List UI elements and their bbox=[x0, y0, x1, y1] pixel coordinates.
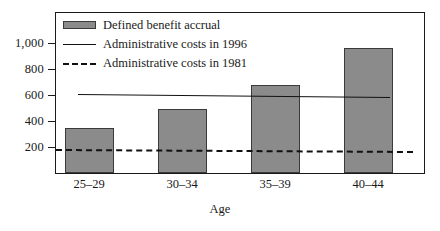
y-axis-label-800: 800 bbox=[0, 63, 44, 76]
chart-legend: Defined benefit accrual Administrative c… bbox=[63, 16, 323, 73]
y-axis-label-1000: 1,000 bbox=[0, 37, 44, 50]
x-axis-label-40-44: 40–44 bbox=[328, 178, 408, 191]
legend-dashed-line-icon bbox=[63, 54, 97, 73]
plot-area: Defined benefit accrual Administrative c… bbox=[55, 12, 425, 174]
x-axis-label-30-34: 30–34 bbox=[142, 178, 222, 191]
legend-label-defined-benefit-accrual: Defined benefit accrual bbox=[103, 17, 220, 33]
x-axis-title: Age bbox=[0, 203, 440, 216]
x-axis-label-35-39: 35–39 bbox=[235, 178, 315, 191]
legend-swatch-icon bbox=[63, 16, 97, 35]
y-axis-label-200: 200 bbox=[0, 141, 44, 154]
y-axis-label-600: 600 bbox=[0, 89, 44, 102]
y-axis-label-400: 400 bbox=[0, 115, 44, 128]
x-axis-label-25-29: 25–29 bbox=[49, 178, 129, 191]
legend-label-admin-costs-1996: Administrative costs in 1996 bbox=[103, 36, 247, 52]
bar-35-39 bbox=[251, 85, 300, 173]
legend-label-admin-costs-1981: Administrative costs in 1981 bbox=[103, 55, 247, 71]
legend-item-defined-benefit-accrual: Defined benefit accrual bbox=[63, 16, 323, 35]
legend-solid-line-icon bbox=[63, 35, 97, 54]
bar-40-44 bbox=[344, 48, 393, 173]
legend-item-admin-costs-1981: Administrative costs in 1981 bbox=[63, 54, 323, 73]
bar-30-34 bbox=[158, 109, 207, 173]
legend-item-admin-costs-1996: Administrative costs in 1996 bbox=[63, 35, 323, 54]
bar-chart-figure: 1,000 800 600 400 200 Defined benefit ac… bbox=[0, 0, 440, 231]
